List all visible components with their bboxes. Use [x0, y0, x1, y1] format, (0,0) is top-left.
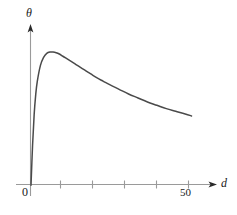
x-axis-label: d	[221, 177, 227, 189]
origin-label: 0	[22, 186, 28, 198]
data-curve	[31, 52, 192, 185]
y-axis-label: θ	[26, 7, 32, 19]
plot-canvas	[0, 0, 237, 215]
plot-figure: θ d 0 50	[0, 0, 237, 215]
x-tick-label-50: 50	[180, 187, 191, 198]
